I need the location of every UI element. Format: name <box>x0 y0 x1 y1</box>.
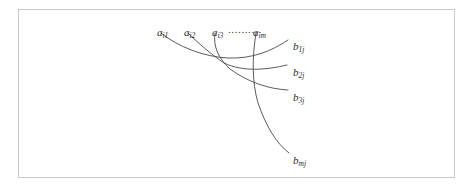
ellipsis-leader-dots: .......... <box>228 24 262 35</box>
source-node-a-i1: ai1 <box>157 27 168 40</box>
target-node-b-2j: b2j <box>293 67 304 80</box>
source-node-a-i2: ai2 <box>184 27 195 40</box>
edge-a-i3-to-b-3j <box>215 33 288 90</box>
edge-a-i2-to-b-2j <box>188 33 287 69</box>
edge-a-im-to-b-mj <box>253 33 289 153</box>
target-node-b-3j: b3j <box>293 92 304 105</box>
target-node-b-mj: bmj <box>293 155 306 168</box>
edge-a-i1-to-b-1j <box>161 33 288 58</box>
target-node-b-1j: b1j <box>293 41 304 54</box>
source-node-a-i3: ai3 <box>212 27 223 40</box>
figure-page: ai1 ai2 ai3 aim .......... b1j b2j b3j b… <box>0 0 472 189</box>
